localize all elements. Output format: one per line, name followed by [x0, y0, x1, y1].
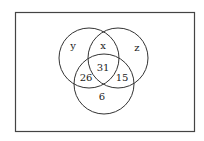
region-right-overlap-value: 15 [116, 72, 129, 83]
venn-diagram: y x z 31 26 15 6 [0, 0, 204, 141]
label-z: z [134, 42, 139, 53]
region-center-value: 31 [97, 62, 110, 73]
label-y: y [69, 40, 76, 51]
region-left-overlap-value: 26 [80, 72, 93, 83]
label-x: x [100, 40, 106, 51]
region-bottom-only-value: 6 [99, 91, 105, 102]
